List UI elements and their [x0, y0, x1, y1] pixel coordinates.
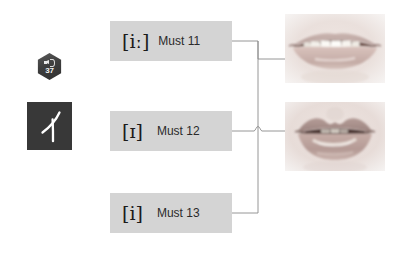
track-number: 37 [45, 67, 54, 75]
ipa-symbol: [i] [122, 204, 143, 223]
mouth-relaxed-illustration [285, 102, 385, 171]
diagram-canvas: 37 イ [iː] Must 11 [ɪ] Must 12 [i] Must 1… [0, 0, 409, 254]
lesson-label: Must 13 [157, 206, 200, 220]
phoneme-row-must-11[interactable]: [iː] Must 11 [110, 21, 232, 61]
phoneme-row-must-12[interactable]: [ɪ] Must 12 [110, 111, 232, 151]
mouth-photo-spread [285, 14, 385, 83]
katakana-i-glyph [33, 108, 67, 144]
mouth-photo-relaxed [285, 102, 385, 171]
badge-content: 37 [36, 53, 63, 80]
connector-must-11 [232, 41, 285, 59]
katakana-tile: イ [27, 102, 72, 150]
mouth-spread-illustration [285, 14, 385, 83]
lesson-label: Must 11 [158, 34, 200, 48]
ipa-symbol: [iː] [122, 32, 149, 51]
speaker-icon [44, 59, 55, 66]
ipa-symbol: [ɪ] [122, 122, 143, 141]
phoneme-row-must-13[interactable]: [i] Must 13 [110, 193, 232, 233]
audio-track-badge[interactable]: 37 [36, 53, 63, 80]
lesson-label: Must 12 [157, 124, 200, 138]
connector-must-12-with-hop [232, 127, 285, 132]
